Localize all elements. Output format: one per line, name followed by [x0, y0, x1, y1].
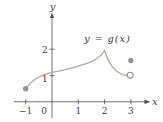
- y-axis-arrowhead-icon: [50, 13, 54, 19]
- labels: y = g(x) y x −1 0 1 2 3 1 2: [19, 1, 158, 116]
- closed-endpoint-left: [23, 86, 28, 91]
- curve-label: y = g(x): [83, 33, 131, 44]
- x-tick-label-1: 1: [75, 106, 81, 116]
- open-endpoint: [127, 72, 133, 78]
- x-tick-label-2: 2: [102, 106, 108, 116]
- function-graph-figure: y = g(x) y x −1 0 1 2 3 1 2: [0, 0, 163, 122]
- curve: [26, 50, 128, 89]
- y-axis-label: y: [49, 1, 56, 12]
- graph-svg: y = g(x) y x −1 0 1 2 3 1 2: [0, 0, 163, 122]
- x-axis-arrowhead-icon: [145, 100, 151, 104]
- axis-arrowheads: [50, 13, 151, 104]
- curve-left-branch: [26, 50, 105, 89]
- curve-right-branch: [105, 50, 128, 75]
- x-tick-label-0: 0: [41, 106, 47, 116]
- y-tick-label-2: 2: [42, 45, 48, 55]
- x-tick-label-3: 3: [128, 106, 134, 116]
- x-tick-label-neg1: −1: [19, 106, 32, 116]
- y-tick-label-1: 1: [42, 74, 48, 84]
- x-axis-label: x: [152, 96, 158, 107]
- isolated-filled-point: [128, 58, 133, 63]
